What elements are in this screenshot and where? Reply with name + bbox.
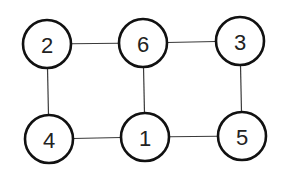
node-3: 3	[216, 17, 264, 65]
node-5: 5	[218, 112, 266, 160]
node-label: 5	[236, 125, 248, 150]
node-label: 4	[43, 128, 55, 153]
node-label: 1	[139, 126, 151, 151]
node-label: 6	[137, 32, 149, 57]
node-1: 1	[121, 113, 169, 161]
node-6: 6	[119, 19, 167, 67]
graph-diagram: 263415	[0, 0, 288, 174]
node-label: 2	[41, 33, 53, 58]
node-4: 4	[25, 115, 73, 163]
node-2: 2	[23, 20, 71, 68]
node-label: 3	[234, 30, 246, 55]
